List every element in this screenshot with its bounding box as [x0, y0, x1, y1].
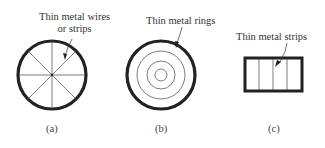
inner-ring-2	[147, 61, 175, 89]
caption-b: (b)	[155, 123, 167, 134]
label-b: Thin metal rings	[146, 15, 215, 27]
arrowhead-a	[63, 53, 67, 60]
label-c-line1: Thin metal strips	[236, 31, 307, 42]
label-a-line2: or strips	[39, 23, 110, 35]
label-c: Thin metal strips	[236, 31, 307, 43]
label-b-line1: Thin metal rings	[146, 15, 215, 26]
figure-c-strips	[245, 43, 302, 91]
figure-a-radial-wires	[18, 39, 86, 109]
inner-ring-1	[137, 51, 185, 99]
figure-b-concentric-rings	[127, 27, 195, 109]
arrowhead-c	[275, 60, 281, 67]
outer-frame-c	[245, 58, 302, 91]
inner-ring-3	[155, 69, 167, 81]
caption-a: (a)	[46, 123, 58, 134]
label-a-line1: Thin metal wires	[39, 11, 110, 23]
vertical-strips	[259, 59, 287, 90]
caption-c: (c)	[268, 123, 280, 134]
leader-line-b	[177, 27, 182, 43]
label-a: Thin metal wires or strips	[39, 11, 110, 35]
